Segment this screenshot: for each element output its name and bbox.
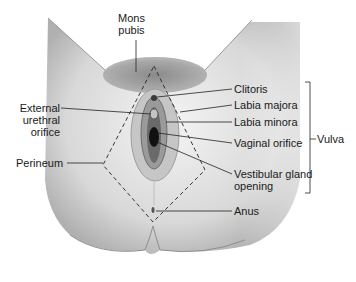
label-mons-pubis: Mons pubis	[118, 12, 145, 36]
label-urethral: urethral	[0, 114, 60, 126]
mons-pubis-hair	[103, 57, 207, 93]
label-opening: opening	[234, 180, 312, 192]
label-vaginal-orifice: Vaginal orifice	[234, 137, 302, 149]
body-silhouette	[45, 0, 356, 282]
label-external-urethral-orifice: External urethral orifice	[0, 102, 60, 138]
label-mons: Mons	[118, 12, 145, 24]
label-labia-minora: Labia minora	[234, 116, 298, 128]
label-external: External	[0, 102, 60, 114]
anatomy-diagram: Mons pubis External urethral orifice Per…	[0, 0, 356, 282]
label-clitoris: Clitoris	[234, 83, 268, 95]
urethral-orifice-shape	[150, 109, 158, 119]
label-pubis: pubis	[118, 24, 145, 36]
label-orifice: orifice	[0, 126, 60, 138]
label-vestibular-gland: Vestibular gland	[234, 168, 312, 180]
label-anus: Anus	[234, 205, 259, 217]
clitoris-shape	[151, 95, 157, 101]
label-vulva: Vulva	[317, 133, 344, 145]
label-vestibular-gland-opening: Vestibular gland opening	[234, 168, 312, 192]
label-labia-majora: Labia majora	[234, 99, 298, 111]
label-perineum: Perineum	[16, 157, 63, 169]
anus-shape	[152, 207, 155, 213]
vaginal-orifice-shape	[149, 127, 159, 147]
illustration	[0, 0, 356, 282]
